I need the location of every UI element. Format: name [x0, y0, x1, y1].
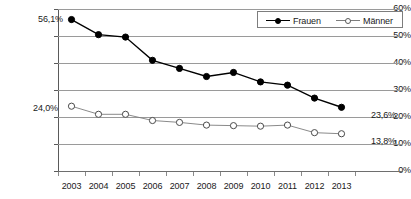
data-point-marker — [176, 65, 182, 71]
series-line-frauen — [72, 20, 342, 108]
data-point-marker — [338, 104, 344, 110]
data-point-marker — [284, 82, 290, 88]
chart-legend: Frauen Männer — [257, 11, 403, 28]
data-point-marker — [203, 122, 209, 128]
legend-entry-maenner: Männer — [336, 14, 393, 27]
line-chart: 0%10%20%30%40%50%60% 2003200420052006200… — [0, 0, 411, 199]
data-point-marker — [203, 73, 209, 79]
data-point-marker — [122, 34, 128, 40]
filled-circle-marker-icon — [266, 15, 290, 26]
data-point-marker — [95, 32, 101, 38]
data-point-marker — [284, 122, 290, 128]
data-label-frauen-2013: 23,6% — [371, 110, 396, 120]
data-point-marker — [176, 119, 182, 125]
data-point-marker — [149, 57, 155, 63]
data-label-maenner-2003: 24,0% — [33, 103, 58, 113]
data-point-marker — [95, 111, 101, 117]
data-point-marker — [257, 79, 263, 85]
data-point-marker — [230, 123, 236, 129]
data-point-marker — [230, 69, 236, 75]
data-point-marker — [68, 103, 74, 109]
data-point-marker — [122, 111, 128, 117]
data-point-marker — [257, 123, 263, 129]
data-point-marker — [149, 117, 155, 123]
data-label-maenner-2013: 13,8% — [371, 136, 396, 146]
data-label-frauen-2003: 56,1% — [38, 14, 63, 24]
legend-entry-frauen: Frauen — [266, 14, 321, 27]
data-point-marker — [311, 130, 317, 136]
data-point-marker — [311, 95, 317, 101]
series-line-männer — [72, 106, 342, 134]
legend-label-maenner: Männer — [363, 16, 393, 26]
series-plot — [0, 0, 411, 199]
data-point-marker — [338, 131, 344, 137]
open-circle-marker-icon — [336, 15, 360, 26]
legend-label-frauen: Frauen — [293, 16, 321, 26]
data-point-marker — [68, 16, 74, 22]
